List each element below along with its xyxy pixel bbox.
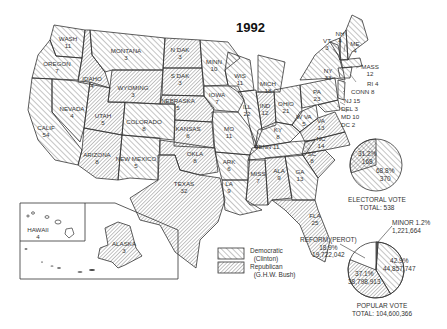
legend-swatch-republican xyxy=(218,262,244,273)
label-idaho: IDAHO4 xyxy=(82,75,102,89)
label-oregon: OREGON7 xyxy=(43,60,71,74)
label-fla: FLA25 xyxy=(309,212,320,226)
aleutian-islands xyxy=(25,248,96,273)
label-wash: WASH11 xyxy=(59,35,77,49)
label-md: MD 10 xyxy=(341,113,359,120)
label-ga: GA13 xyxy=(296,168,305,182)
electoral-caption: ELECTORAL VOTETOTAL: 538 xyxy=(346,196,408,211)
state-conn xyxy=(338,67,352,78)
label-hawaii: HAWAII4 xyxy=(27,226,49,240)
electoral-vote-pie xyxy=(350,139,402,191)
label-kansas: KANSAS6 xyxy=(175,125,200,139)
label-calif: CALIF54 xyxy=(37,124,55,138)
map-title: 1992 xyxy=(236,20,265,35)
label-ill: ILL22 xyxy=(243,103,252,117)
label-nh: NH4 xyxy=(336,30,345,44)
label-ndak: N DAK3 xyxy=(171,46,190,60)
label-vt: VT3 xyxy=(323,37,331,51)
label-newmexico: NEW MEXICO5 xyxy=(116,155,157,169)
label-ohio: OHIO21 xyxy=(278,100,294,114)
label-mich: MICH18 xyxy=(260,80,276,94)
label-ala: ALA9 xyxy=(273,167,285,181)
popular-caption: POPULAR VOTETOTAL: 104,600,366 xyxy=(346,302,418,317)
label-ky: KY8 xyxy=(274,126,282,140)
legend-swatch-democratic xyxy=(218,248,244,259)
label-tenn: TENN 11 xyxy=(254,143,279,150)
label-wyoming: WYOMING3 xyxy=(118,84,149,98)
label-alaska: ALASKA3 xyxy=(112,240,136,254)
label-okla: OKLA8 xyxy=(187,150,204,164)
label-del: DEL 3 xyxy=(341,105,358,112)
label-wis: WIS11 xyxy=(234,72,246,86)
label-pa: PA23 xyxy=(313,88,321,102)
legend-republican-label: Republican (G.H.W. Bush) xyxy=(250,263,296,278)
popular-dem-label: 42.9%44,857,747 xyxy=(383,257,416,272)
label-texas: TEXAS32 xyxy=(174,180,194,194)
label-montana: MONTANA3 xyxy=(111,47,141,61)
label-nc: NC14 xyxy=(317,135,326,149)
label-la: LA9 xyxy=(225,180,233,194)
label-me: ME4 xyxy=(350,40,359,54)
label-sc: SC8 xyxy=(308,150,317,164)
electoral-dem-label: 68.8%370 xyxy=(376,167,394,182)
label-iowa: IOWA7 xyxy=(209,91,225,105)
label-ny: NY33 xyxy=(324,67,333,81)
label-ind: IND12 xyxy=(260,102,271,116)
label-va: VA13 xyxy=(317,117,325,131)
label-mo: MO11 xyxy=(224,125,234,139)
label-nebraska: NEBRASKA5 xyxy=(161,97,195,111)
label-nevada: NEVADA4 xyxy=(60,105,85,119)
legend-democratic-label: Democratic (Clinton) xyxy=(250,247,283,262)
label-ri: RI 4 xyxy=(367,80,378,87)
perot-label: REFORM (PEROT)18.9%19,722,042 xyxy=(300,236,357,259)
label-wva: W VA5 xyxy=(296,113,311,127)
label-colorado: COLORADO8 xyxy=(126,118,161,132)
state-mass xyxy=(340,58,362,68)
label-ark: ARK6 xyxy=(223,158,236,172)
label-dc: DC 2 xyxy=(341,121,355,128)
label-minn: MINN10 xyxy=(206,58,222,72)
label-utah: UTAH5 xyxy=(95,112,111,126)
label-arizona: ARIZONA8 xyxy=(83,151,111,165)
label-miss: MISS7 xyxy=(250,170,265,184)
label-sdak: S DAK3 xyxy=(171,72,190,86)
label-nj: NJ 15 xyxy=(344,97,360,104)
label-mass: MASS12 xyxy=(361,63,379,77)
electoral-rep-label: 31.2%168 xyxy=(358,150,376,165)
label-conn: CONN 8 xyxy=(351,88,374,95)
minor-label: MINOR 1.2%1,221,664 xyxy=(392,219,430,234)
popular-rep-label: 37.1%38,798,913 xyxy=(348,270,381,285)
